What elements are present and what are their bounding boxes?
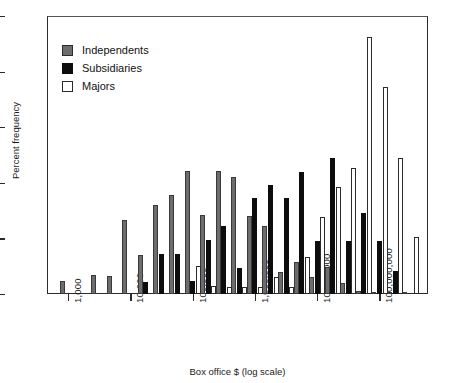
y-tick-mark	[0, 72, 5, 73]
bar-majors	[227, 287, 232, 294]
bar-chart: Percent frequency 0510152025 Box office …	[0, 0, 452, 383]
x-axis-title: Box office $ (log scale)	[47, 366, 428, 377]
bar-subsidiaries	[175, 254, 180, 294]
x-tick-mark	[317, 294, 318, 301]
bar-independents	[200, 215, 205, 294]
x-tick-mark	[130, 294, 131, 301]
y-axis-title: Percent frequency	[10, 66, 21, 216]
bar-independents	[216, 171, 221, 294]
bar-majors	[367, 37, 372, 294]
bar-independents	[371, 292, 376, 294]
x-tick-mark	[379, 294, 380, 301]
bar-subsidiaries	[159, 254, 164, 294]
bar-independents	[325, 267, 330, 294]
bar-independents	[294, 262, 299, 294]
bar-majors	[196, 266, 201, 294]
y-tick-mark	[0, 238, 5, 239]
bar-majors	[383, 87, 388, 294]
bar-subsidiaries	[330, 158, 335, 294]
bar-independents	[278, 272, 283, 294]
bar-independents	[356, 291, 361, 294]
y-axis: Percent frequency 0510152025	[0, 0, 47, 300]
bar-independents	[60, 281, 65, 294]
bar-independents	[91, 275, 96, 294]
bar-majors	[211, 286, 216, 294]
bar-independents	[231, 177, 236, 294]
bar-subsidiaries	[268, 185, 273, 294]
bar-subsidiaries	[206, 240, 211, 294]
bar-subsidiaries	[237, 268, 242, 294]
x-tick-mark	[255, 294, 256, 301]
bar-subsidiaries	[393, 271, 398, 294]
legend-label-subsidiaries: Subsidiaries	[82, 61, 142, 76]
bar-independents	[340, 283, 345, 294]
bar-majors	[398, 158, 403, 294]
bar-majors	[336, 187, 341, 294]
bar-majors	[242, 287, 247, 294]
bar-subsidiaries	[361, 213, 366, 294]
bar-majors	[320, 217, 325, 294]
bar-independents	[138, 255, 143, 294]
x-tick-mark	[193, 294, 194, 301]
bar-subsidiaries	[315, 241, 320, 294]
legend-swatch-majors	[62, 81, 73, 92]
bar-subsidiaries	[284, 198, 289, 294]
bar-independents	[185, 171, 190, 294]
legend-item-independents: Independents	[62, 42, 149, 58]
chart-legend: Independents Subsidiaries Majors	[62, 42, 149, 96]
bar-majors	[274, 277, 279, 294]
legend-swatch-independents	[62, 45, 73, 56]
x-tick-mark	[68, 294, 69, 301]
bar-majors	[351, 168, 356, 294]
y-tick-mark	[0, 127, 5, 128]
bar-majors	[305, 257, 310, 294]
bar-majors	[289, 287, 294, 294]
bar-subsidiaries	[346, 241, 351, 294]
bar-independents	[122, 220, 127, 295]
bar-independents	[153, 205, 158, 294]
legend-item-subsidiaries: Subsidiaries	[62, 60, 149, 76]
bar-independents	[107, 276, 112, 294]
legend-swatch-subsidiaries	[62, 63, 73, 74]
bar-subsidiaries	[143, 282, 148, 294]
bar-independents	[309, 277, 314, 294]
bar-subsidiaries	[190, 281, 195, 294]
bar-independents	[169, 195, 174, 294]
bar-independents	[262, 226, 267, 294]
x-axis: Box office $ (log scale) 1,00010,000100,…	[0, 294, 452, 383]
legend-label-majors: Majors	[82, 79, 115, 94]
bar-subsidiaries	[377, 241, 382, 294]
bar-majors	[414, 237, 419, 294]
bar-majors	[258, 287, 263, 294]
bar-subsidiaries	[221, 226, 226, 294]
bar-subsidiaries	[299, 172, 304, 294]
bar-subsidiaries	[252, 198, 257, 294]
bar-independents	[402, 292, 407, 294]
legend-item-majors: Majors	[62, 78, 149, 94]
bar-independents	[387, 292, 392, 294]
y-tick-mark	[0, 183, 5, 184]
legend-label-independents: Independents	[82, 43, 149, 58]
x-tick-label: 1,000	[72, 278, 83, 303]
bar-independents	[247, 216, 252, 294]
y-tick-mark	[0, 16, 5, 17]
